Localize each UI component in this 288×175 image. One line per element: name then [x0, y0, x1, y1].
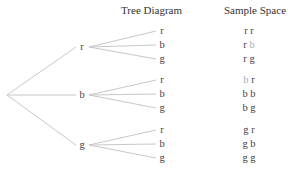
outcome-first: g [243, 124, 248, 135]
branch-root-to-g [7, 95, 76, 145]
sample-outcome-bg: b g [242, 102, 255, 114]
node-level2-r-b: b [159, 39, 164, 51]
outcome-first: b [243, 74, 248, 85]
outcome-second: r [251, 74, 255, 85]
sample-outcome-gb: g b [242, 138, 255, 150]
node-level1-g: g [79, 139, 84, 151]
outcome-first: g [242, 138, 247, 149]
outcome-first: b [242, 88, 247, 99]
sample-outcome-br: b r [243, 74, 254, 86]
node-level2-b-b: b [159, 88, 164, 100]
node-level1-b: b [79, 89, 84, 101]
outcome-second: b [250, 138, 255, 149]
outcome-second: g [250, 102, 255, 113]
sample-outcome-bb: b b [242, 88, 255, 100]
branch-b-to-g [89, 95, 156, 108]
outcome-second: b [250, 88, 255, 99]
outcome-first: b [242, 102, 247, 113]
branch-root-to-r [7, 47, 76, 95]
node-level2-g-b: b [159, 138, 164, 150]
outcome-second: r [250, 25, 254, 36]
sample-outcome-rr: r r [244, 25, 254, 37]
node-level2-r-r: r [160, 25, 164, 37]
node-level2-g-g: g [159, 152, 164, 164]
node-level2-r-g: g [159, 53, 164, 65]
branch-b-to-b [89, 94, 156, 95]
sample-outcome-gr: g r [243, 124, 254, 136]
sample-outcome-rg: r g [243, 53, 254, 65]
node-level1-r: r [80, 41, 84, 53]
outcome-second: r [251, 124, 255, 135]
outcome-second: g [250, 152, 255, 163]
outcome-first: r [243, 53, 247, 64]
branch-r-to-r [89, 31, 156, 47]
node-level2-g-r: r [160, 124, 164, 136]
branch-g-to-r [89, 130, 156, 145]
outcome-second: g [249, 53, 254, 64]
sample-outcome-rb: r b [243, 39, 254, 51]
outcome-first: r [244, 25, 248, 36]
outcome-first: g [242, 152, 247, 163]
branch-g-to-b [89, 144, 156, 145]
sample-outcome-gg: g g [242, 152, 255, 164]
branch-r-to-b [89, 45, 156, 47]
outcome-first: r [243, 39, 247, 50]
branch-b-to-r [89, 80, 156, 95]
node-level2-b-r: r [160, 74, 164, 86]
outcome-second: b [249, 39, 254, 50]
node-level2-b-g: g [159, 102, 164, 114]
branch-r-to-g [89, 47, 156, 59]
branch-g-to-g [89, 145, 156, 158]
